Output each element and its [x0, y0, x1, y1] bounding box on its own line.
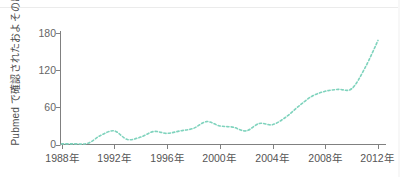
- y-tick-marks: [56, 34, 61, 146]
- x-tick-marks: [63, 145, 379, 150]
- chart-figure: Pubmed で確認されたおよその出版数 180 120 60 0 1988年 …: [0, 0, 400, 177]
- series-line-pubmed-publications: [62, 40, 379, 144]
- plot-canvas: [0, 0, 400, 177]
